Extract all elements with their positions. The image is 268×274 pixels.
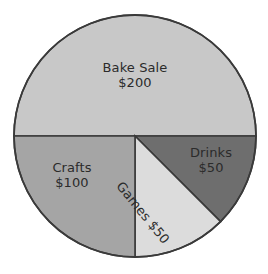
pie-label-bake-sale: Bake Sale $200: [74, 60, 196, 90]
pie-slice-crafts[interactable]: [14, 136, 135, 257]
pie-label-bake-sale-name: Bake Sale: [103, 60, 168, 75]
pie-label-drinks-value: $50: [172, 160, 250, 175]
pie-label-crafts-value: $100: [28, 175, 116, 190]
pie-label-bake-sale-value: $200: [74, 75, 196, 90]
pie-label-drinks: Drinks $50: [172, 145, 250, 175]
pie-chart-canvas: [0, 0, 268, 274]
pie-label-crafts-name: Crafts: [52, 160, 91, 175]
pie-label-drinks-name: Drinks: [190, 145, 232, 160]
pie-chart: Bake Sale $200 Drinks $50 Games $50 Craf…: [0, 0, 268, 274]
pie-label-crafts: Crafts $100: [28, 160, 116, 190]
